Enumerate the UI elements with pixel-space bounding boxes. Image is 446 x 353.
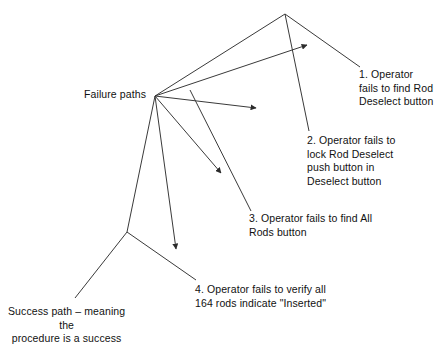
apex-down-to-item3 — [190, 90, 251, 211]
hub-to-success-vertex — [127, 96, 155, 232]
hub-to-arrow-1 — [155, 45, 307, 96]
apex-to-item2 — [285, 14, 309, 131]
apex-to-item1 — [285, 14, 360, 67]
failure-item-2-label: 2. Operator fails to lock Rod Deselect p… — [307, 134, 395, 188]
diagram-canvas: Failure paths 1. Operator fails to find … — [0, 0, 446, 353]
success-vertex-to-success-label — [75, 232, 127, 298]
failure-item-1-label: 1. Operator fails to find Rod Deselect b… — [359, 68, 433, 109]
success-path-label: Success path – meaning the procedure is … — [8, 305, 125, 346]
hub-to-arrow-2 — [155, 96, 256, 108]
failure-item-3-label: 3. Operator fails to find All Rods butto… — [249, 212, 372, 239]
failure-item-4-label: 4. Operator fails to verify all 164 rods… — [195, 283, 326, 310]
hub-to-arrow-3 — [155, 96, 221, 173]
hub-label: Failure paths — [84, 88, 146, 102]
hub-to-apex — [155, 14, 285, 96]
hub-to-arrow-4 — [155, 96, 176, 249]
success-vertex-to-item4 — [127, 232, 196, 280]
